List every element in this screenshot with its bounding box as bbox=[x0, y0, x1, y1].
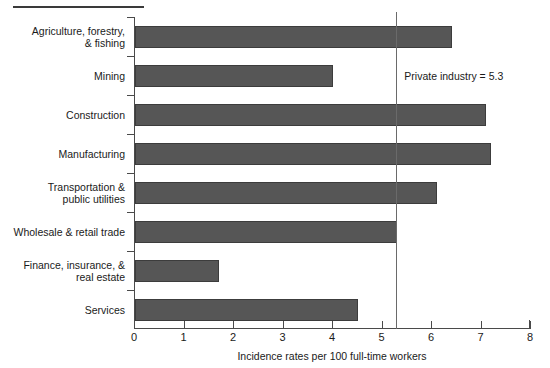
x-axis-tick-label: 3 bbox=[279, 331, 285, 343]
x-axis-tick bbox=[233, 321, 234, 329]
bar bbox=[135, 104, 486, 126]
bar-row: Transportation &public utilities bbox=[134, 173, 530, 212]
x-axis-tick bbox=[184, 321, 185, 329]
bar-row: Construction bbox=[134, 95, 530, 134]
category-label: Services bbox=[85, 303, 125, 316]
bar bbox=[135, 299, 358, 321]
y-axis-tick bbox=[127, 251, 134, 252]
category-label: Wholesale & retail trade bbox=[14, 225, 125, 238]
bar-row: Wholesale & retail trade bbox=[134, 212, 530, 251]
category-label-line: Transportation & bbox=[48, 180, 125, 193]
x-axis-tick-label: 2 bbox=[230, 331, 236, 343]
category-label-line: Wholesale & retail trade bbox=[14, 225, 125, 238]
x-axis-tick bbox=[530, 321, 531, 329]
category-label-line: Construction bbox=[66, 108, 125, 121]
bar-row: Manufacturing bbox=[134, 134, 530, 173]
y-axis-tick bbox=[127, 17, 134, 18]
chart-figure: Agriculture, forestry,& fishingMiningCon… bbox=[0, 0, 550, 368]
bar bbox=[135, 260, 219, 282]
x-axis-tick bbox=[332, 321, 333, 329]
category-label: Transportation &public utilities bbox=[48, 180, 125, 205]
category-label: Mining bbox=[94, 69, 125, 82]
category-label-line: Manufacturing bbox=[58, 147, 125, 160]
y-axis-tick bbox=[127, 134, 134, 135]
x-axis-tick bbox=[283, 321, 284, 329]
bar bbox=[135, 26, 452, 48]
y-axis-tick bbox=[127, 56, 134, 57]
y-axis-tick bbox=[127, 290, 134, 291]
x-axis-tick bbox=[481, 321, 482, 329]
category-label-line: real estate bbox=[23, 271, 125, 284]
top-rule-divider bbox=[13, 6, 144, 8]
bar bbox=[135, 221, 397, 243]
category-label-line: Agriculture, forestry, bbox=[32, 24, 125, 37]
x-axis-tick-label: 4 bbox=[329, 331, 335, 343]
bar-row: Agriculture, forestry,& fishing bbox=[134, 17, 530, 56]
category-label: Manufacturing bbox=[58, 147, 125, 160]
y-axis-tick bbox=[127, 212, 134, 213]
bar bbox=[135, 143, 491, 165]
x-axis-tick-label: 8 bbox=[527, 331, 533, 343]
bar bbox=[135, 65, 333, 87]
category-label-line: Finance, insurance, & bbox=[23, 258, 125, 271]
category-label-line: & fishing bbox=[32, 37, 125, 50]
x-axis-tick bbox=[431, 321, 432, 329]
category-label-line: Mining bbox=[94, 69, 125, 82]
y-axis-tick bbox=[127, 95, 134, 96]
x-axis-tick bbox=[382, 321, 383, 329]
plot-area: Agriculture, forestry,& fishingMiningCon… bbox=[134, 17, 530, 329]
x-axis-tick-label: 1 bbox=[180, 331, 186, 343]
y-axis-tick bbox=[127, 173, 134, 174]
category-label-line: Services bbox=[85, 303, 125, 316]
private-industry-reference-label: Private industry = 5.3 bbox=[404, 70, 503, 82]
x-axis-tick-label: 0 bbox=[131, 331, 137, 343]
x-axis-title: Incidence rates per 100 full-time worker… bbox=[134, 350, 530, 362]
category-label: Finance, insurance, &real estate bbox=[23, 258, 125, 283]
x-axis-tick-label: 5 bbox=[378, 331, 384, 343]
private-industry-reference-line bbox=[396, 12, 397, 329]
bar-row: Finance, insurance, &real estate bbox=[134, 251, 530, 290]
category-label-line: public utilities bbox=[48, 193, 125, 206]
x-axis-tick-label: 6 bbox=[428, 331, 434, 343]
category-label: Agriculture, forestry,& fishing bbox=[32, 24, 125, 49]
category-label: Construction bbox=[66, 108, 125, 121]
bar bbox=[135, 182, 437, 204]
x-axis-tick-label: 7 bbox=[477, 331, 483, 343]
